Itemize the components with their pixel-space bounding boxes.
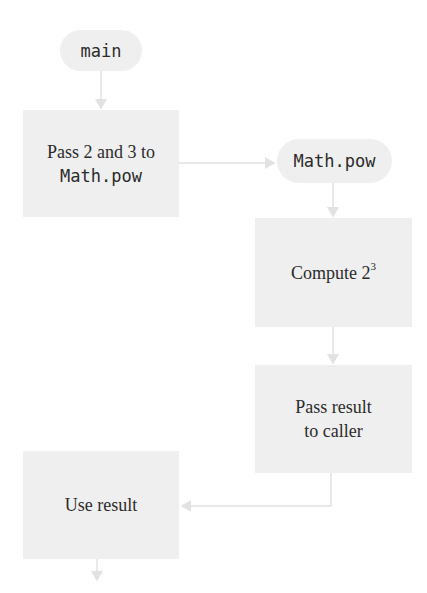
node-math-pow: Math.pow (277, 139, 392, 183)
edge-pass-result-to-use-result (182, 473, 331, 506)
node-pass-result: Pass result to caller (255, 365, 412, 473)
node-use-result: Use result (23, 451, 179, 559)
node-use-result-label: Use result (65, 493, 137, 517)
node-compute: Compute 23 (255, 218, 412, 327)
node-pass-args-line1: Pass 2 and 3 to (47, 140, 155, 164)
node-pass-result-line1: Pass result (295, 395, 372, 419)
node-compute-superscript: 3 (371, 260, 377, 272)
node-compute-label: Compute 2 (291, 263, 371, 283)
node-main: main (60, 30, 142, 71)
node-pass-result-line2: to caller (304, 419, 362, 443)
node-pass-args-line2: Math.pow (60, 164, 142, 188)
node-main-label: main (81, 41, 122, 61)
node-compute-label-wrap: Compute 23 (291, 261, 376, 285)
node-math-pow-label: Math.pow (294, 151, 376, 171)
node-pass-args: Pass 2 and 3 to Math.pow (23, 110, 179, 217)
